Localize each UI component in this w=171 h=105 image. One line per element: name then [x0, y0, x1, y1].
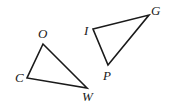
triangle-igp	[93, 15, 149, 65]
vertex-label-w: W	[82, 89, 94, 104]
vertex-label-i: I	[83, 23, 89, 38]
triangle-cow	[27, 44, 87, 88]
vertex-label-o: O	[38, 26, 48, 41]
triangles-diagram: O C W I G P	[0, 0, 171, 105]
vertex-label-p: P	[102, 68, 111, 83]
vertex-label-g: G	[151, 3, 161, 18]
vertex-label-c: C	[15, 70, 24, 85]
